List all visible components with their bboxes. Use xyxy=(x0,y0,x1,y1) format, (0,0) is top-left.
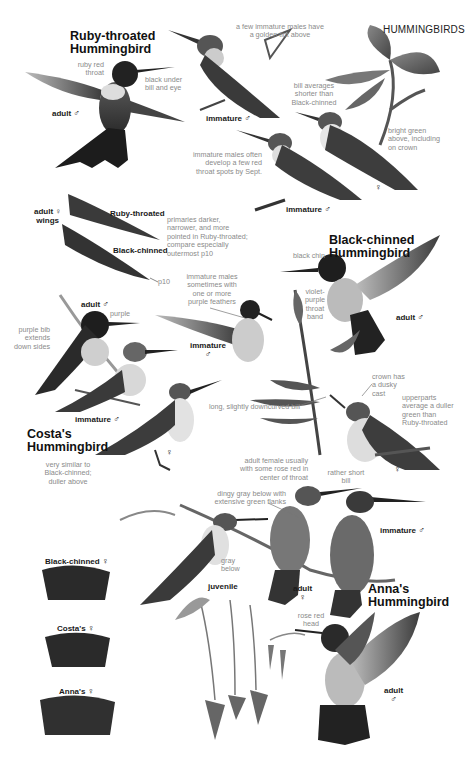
black-chinned-title: Black-chinned Hummingbird xyxy=(329,234,414,260)
label-text: Costa's xyxy=(57,624,86,633)
male-symbol-icon: ♂ xyxy=(417,312,424,322)
label-text: adult xyxy=(396,313,415,322)
adult-female-wings-art xyxy=(62,194,160,282)
label-annas-immature-male: immature ♂ xyxy=(380,526,425,535)
male-symbol-icon: ♂ xyxy=(244,113,251,123)
tail-black-chinned-art xyxy=(42,565,110,600)
label-costas-female: ♀ xyxy=(166,448,173,457)
note-purple: purple xyxy=(110,310,130,318)
note-crown-dusky: crown has a dusky cast xyxy=(372,373,405,398)
note-black-chin: black chin xyxy=(293,252,325,260)
female-symbol-icon: ♀ xyxy=(375,182,382,192)
note-bright-green: bright green above, including on crown xyxy=(388,127,440,152)
label-wing-ruby-throated: Ruby-throated xyxy=(110,209,165,218)
male-symbol-icon: ♂ xyxy=(384,695,403,704)
page-header: HUMMINGBIRDS xyxy=(383,24,465,35)
label-adult-female-wings: adult ♀ wings xyxy=(34,207,61,225)
male-symbol-icon: ♂ xyxy=(73,108,80,118)
male-symbol-icon: ♂ xyxy=(102,299,109,309)
note-line: cast xyxy=(372,390,405,398)
costas-title: Costa's Hummingbird xyxy=(27,428,108,454)
label-black-chinned-immature-male: immature ♂ xyxy=(190,341,226,359)
note-line: band xyxy=(302,313,328,321)
female-symbol-icon: ♀ xyxy=(88,686,95,696)
note-line: duller above xyxy=(40,478,96,486)
label-costas-immature-male: immature ♂ xyxy=(75,415,120,424)
label-line: adult ♀ xyxy=(34,207,61,216)
note-dingy-gray: dingy gray below with extensive green fl… xyxy=(212,490,286,507)
note-red-spots: immature males often develop a few red t… xyxy=(190,151,262,176)
note-rose-red-center: adult female usually with some rose red … xyxy=(240,457,308,482)
note-line: bill and eye xyxy=(145,84,182,92)
label-tail-annas: Anna's ♀ xyxy=(59,687,94,696)
annas-title: Anna's Hummingbird xyxy=(368,583,449,609)
label-annas-adult-female: adult ♀ xyxy=(293,584,312,602)
note-line: down sides xyxy=(10,343,50,351)
note-rose-red-head: rose red head xyxy=(294,612,328,629)
label-ruby-immature-male-top: immature ♂ xyxy=(206,114,251,123)
note-line: throat xyxy=(72,69,104,77)
annas-adult-male-art xyxy=(295,612,420,745)
label-line: wings xyxy=(34,216,61,225)
note-black-under-bill: black under bill and eye xyxy=(145,76,182,93)
label-annas-adult-male: adult ♂ xyxy=(384,686,403,704)
female-symbol-icon: ♀ xyxy=(394,464,401,474)
female-symbol-icon: ♀ xyxy=(166,447,173,457)
label-text: immature xyxy=(286,205,322,214)
male-symbol-icon: ♂ xyxy=(113,414,120,424)
note-line: throat spots by Sept. xyxy=(190,168,262,176)
note-bill-shorter: bill averages shorter than Black-chinned xyxy=(284,82,344,107)
note-primaries: primaries darker, narrower, and more poi… xyxy=(167,216,248,258)
note-line: purple feathers xyxy=(180,298,244,306)
male-symbol-icon: ♂ xyxy=(418,525,425,535)
tail-costas-art xyxy=(45,633,110,667)
note-line: outermost p10 xyxy=(167,250,248,258)
note-line: Black-chinned xyxy=(284,99,344,107)
note-line: below xyxy=(221,565,240,573)
label-text: Anna's xyxy=(59,687,85,696)
female-symbol-icon: ♀ xyxy=(88,623,95,633)
label-black-chinned-adult-male: adult ♂ xyxy=(396,313,424,322)
note-purple-feathers: immature males sometimes with one or mor… xyxy=(180,273,244,307)
note-gray-below: gray below xyxy=(221,557,240,574)
note-line: center of throat xyxy=(240,474,308,482)
ruby-throated-title: Ruby-throated Hummingbird xyxy=(70,30,155,56)
title-line-2: Hummingbird xyxy=(368,596,449,609)
label-tail-black-chinned: Black-chinned ♀ xyxy=(45,557,109,566)
label-wing-black-chinned: Black-chinned xyxy=(113,246,168,255)
label-ruby-immature-male-mid: immature ♂ xyxy=(286,205,331,214)
label-ruby-female: ♀ xyxy=(375,183,382,192)
male-symbol-icon: ♂ xyxy=(190,350,226,359)
note-ruby-red-throat: ruby red throat xyxy=(72,61,104,78)
label-annas-juvenile: juvenile xyxy=(208,582,238,591)
label-text: Black-chinned xyxy=(45,557,100,566)
note-upperparts: upperparts average a duller green than R… xyxy=(402,394,454,428)
female-symbol-icon: ♀ xyxy=(293,593,312,602)
ruby-throated-immature-male-top-art xyxy=(168,30,290,118)
note-violet-band: violet- purple throat band xyxy=(302,288,328,322)
title-line-2: Hummingbird xyxy=(329,247,414,260)
note-golden-tint: a few immature males have a golden tint … xyxy=(220,23,340,40)
note-short-bill: rather short bill xyxy=(324,469,368,486)
label-p10: p10 xyxy=(158,278,170,286)
label-tail-costas: Costa's ♀ xyxy=(57,624,95,633)
annas-juvenile-art xyxy=(140,513,268,605)
male-symbol-icon: ♂ xyxy=(324,204,331,214)
note-costas-similar: very similar to Black-chinned; duller ab… xyxy=(40,461,96,486)
fuchsia-flowers-art xyxy=(175,598,305,741)
label-text: adult xyxy=(81,300,100,309)
label-text: immature xyxy=(75,415,111,424)
female-symbol-icon: ♀ xyxy=(102,556,109,566)
title-line-2: Hummingbird xyxy=(70,43,155,56)
note-line: Ruby-throated xyxy=(402,419,454,427)
title-line-2: Hummingbird xyxy=(27,441,108,454)
label-text: adult xyxy=(52,109,71,118)
label-black-chinned-female: ♀ xyxy=(394,465,401,474)
label-ruby-adult-male: adult ♂ xyxy=(52,109,80,118)
note-purple-bib: purple bib extends down sides xyxy=(10,326,50,351)
note-line: bill xyxy=(324,477,368,485)
note-line: a golden tint above xyxy=(220,31,340,39)
note-line: extensive green flanks xyxy=(212,498,286,506)
tail-annas-art xyxy=(40,695,115,735)
label-costas-adult-male: adult ♂ xyxy=(81,300,109,309)
